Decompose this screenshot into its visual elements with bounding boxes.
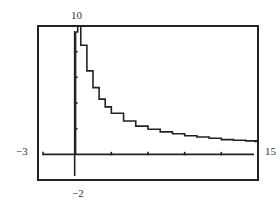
graph-window bbox=[0, 0, 280, 209]
xmin-label: −3 bbox=[16, 146, 28, 157]
xmax-label: 15 bbox=[265, 146, 276, 157]
function-curve bbox=[76, 26, 258, 142]
ymin-label: −2 bbox=[72, 188, 84, 199]
ymax-label: 10 bbox=[71, 10, 82, 21]
plot-frame bbox=[38, 26, 258, 180]
